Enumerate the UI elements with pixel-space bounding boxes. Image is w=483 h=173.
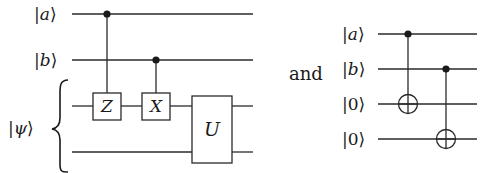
label-a: |a⟩ — [34, 4, 57, 24]
control-dot-a — [103, 10, 110, 17]
gate-u-label: U — [204, 118, 221, 140]
r-control-dot-a — [404, 30, 411, 37]
r-control-dot-b — [442, 65, 449, 72]
label-psi: |ψ⟩ — [8, 118, 34, 138]
register-brace — [52, 80, 68, 172]
control-dot-b — [152, 56, 159, 63]
r-label-anc2: |0⟩ — [342, 129, 365, 149]
label-b: |b⟩ — [34, 50, 57, 70]
quantum-circuit-diagram: Z X U |a⟩ |b⟩ |ψ⟩ and |a⟩ |b⟩ |0⟩ |0⟩ — [0, 0, 483, 173]
r-label-anc1: |0⟩ — [342, 94, 365, 114]
gate-z-label: Z — [100, 96, 114, 116]
r-label-b: |b⟩ — [342, 59, 365, 79]
connector-and: and — [289, 63, 323, 84]
gate-x-label: X — [148, 96, 163, 116]
r-label-a: |a⟩ — [342, 24, 365, 44]
